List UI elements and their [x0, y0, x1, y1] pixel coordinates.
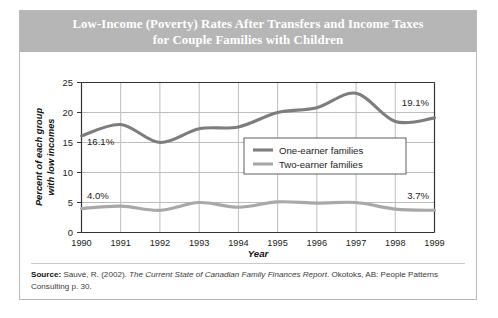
chart-card: Low-Income (Poverty) Rates After Transfe…	[19, 10, 477, 300]
source-note: Source: Sauvé, R. (2002). The Current St…	[31, 269, 467, 292]
y-axis-title: Percent of each group with low incomes	[34, 108, 56, 206]
y-tick-0: 0	[68, 227, 73, 238]
y-tick-5: 5	[68, 197, 73, 208]
x-tick-1993: 1993	[189, 238, 209, 248]
series-line-one-earner-families	[82, 93, 435, 142]
y-axis-tick-labels: 25 20 15 10 5 0	[63, 77, 73, 238]
y-tick-marks	[77, 83, 82, 233]
x-tick-1995: 1995	[267, 238, 287, 248]
source-text-before: Sauvé, R. (2002).	[61, 270, 129, 279]
legend-label-one-earner: One-earner families	[279, 145, 363, 156]
source-label: Source:	[31, 270, 61, 279]
x-axis-tick-labels: 1990 1991 1992 1993 1994 1995 1996 1997 …	[71, 238, 444, 248]
x-tick-1996: 1996	[307, 238, 327, 248]
footer-divider	[31, 263, 465, 264]
x-tick-1991: 1991	[110, 238, 130, 248]
x-tick-1999: 1999	[424, 238, 444, 248]
chart-title-line-1: Low-Income (Poverty) Rates After Transfe…	[72, 17, 423, 31]
source-publication-title: The Current State of Canadian Family Fin…	[129, 270, 327, 279]
y-tick-15: 15	[63, 137, 73, 148]
y-tick-25: 25	[63, 77, 73, 88]
chart-title-bar: Low-Income (Poverty) Rates After Transfe…	[20, 11, 476, 52]
y-tick-10: 10	[63, 167, 73, 178]
x-axis-title: Year	[248, 248, 270, 257]
series-line-two-earner-families	[82, 202, 435, 211]
page-title: Low-Income (Poverty) Rates After Transfe…	[54, 16, 441, 48]
x-tick-1990: 1990	[71, 238, 91, 248]
data-label-one-earner-1999: 19.1%	[402, 97, 430, 108]
x-tick-1997: 1997	[346, 238, 366, 248]
data-label-two-earner-1999: 3.7%	[407, 190, 429, 201]
data-label-two-earner-1990: 4.0%	[87, 190, 109, 201]
y-axis-title-line-2: with low incomes	[46, 119, 56, 196]
y-axis-title-line-1: Percent of each group	[34, 108, 44, 206]
x-tick-1998: 1998	[385, 238, 405, 248]
chart-title-line-2: for Couple Families with Children	[153, 33, 344, 47]
chart-legend[interactable]: One-earner families Two-earner families	[244, 138, 406, 174]
x-tick-1992: 1992	[150, 238, 170, 248]
y-tick-20: 20	[63, 107, 73, 118]
legend-label-two-earner: Two-earner families	[279, 159, 363, 170]
x-tick-1994: 1994	[228, 238, 248, 248]
data-label-one-earner-1990: 16.1%	[87, 136, 115, 147]
line-chart-svg: 25 20 15 10 5 0 Percent of each group wi…	[20, 52, 476, 257]
chart-plot-region: 25 20 15 10 5 0 Percent of each group wi…	[20, 52, 476, 257]
